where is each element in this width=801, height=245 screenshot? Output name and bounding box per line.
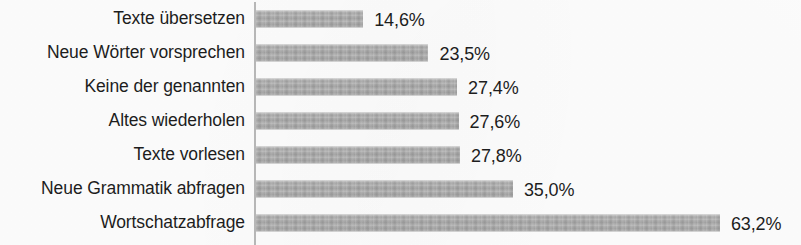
bar-wrapper: 35,0% bbox=[256, 181, 574, 198]
bar-row: Texte übersetzen14,6% bbox=[0, 2, 801, 36]
bar-row: Neue Wörter vorsprechen23,5% bbox=[0, 36, 801, 70]
bar-row: Wortschatzabfrage63,2% bbox=[0, 206, 801, 240]
bar-wrapper: 27,8% bbox=[256, 147, 522, 164]
bar-wrapper: 27,6% bbox=[256, 113, 520, 130]
bar bbox=[256, 181, 513, 198]
bar-row: Altes wiederholen27,6% bbox=[0, 104, 801, 138]
category-label: Keine der genannten bbox=[84, 78, 245, 96]
category-label: Neue Grammatik abfragen bbox=[41, 180, 245, 198]
value-label: 27,4% bbox=[468, 78, 519, 96]
bar-wrapper: 14,6% bbox=[256, 11, 425, 28]
value-label: 63,2% bbox=[731, 214, 782, 232]
category-label: Texte übersetzen bbox=[113, 10, 245, 28]
bar bbox=[256, 79, 457, 96]
value-label: 27,6% bbox=[470, 112, 521, 130]
value-label: 27,8% bbox=[471, 146, 522, 164]
plot-area: Texte übersetzen14,6%Neue Wörter vorspre… bbox=[0, 0, 801, 245]
bar-chart: Texte übersetzen14,6%Neue Wörter vorspre… bbox=[0, 0, 801, 245]
category-label: Texte vorlesen bbox=[134, 146, 245, 164]
value-label: 14,6% bbox=[374, 10, 425, 28]
bar bbox=[256, 215, 720, 232]
bar bbox=[256, 11, 363, 28]
value-label: 35,0% bbox=[524, 180, 575, 198]
bar bbox=[256, 45, 428, 62]
bar-row: Texte vorlesen27,8% bbox=[0, 138, 801, 172]
bar bbox=[256, 113, 459, 130]
category-label: Wortschatzabfrage bbox=[100, 214, 245, 232]
category-label: Neue Wörter vorsprechen bbox=[47, 44, 245, 62]
bar-wrapper: 23,5% bbox=[256, 45, 490, 62]
bar-row: Keine der genannten27,4% bbox=[0, 70, 801, 104]
value-label: 23,5% bbox=[439, 44, 490, 62]
bar-wrapper: 63,2% bbox=[256, 215, 781, 232]
bar-wrapper: 27,4% bbox=[256, 79, 519, 96]
bar bbox=[256, 147, 460, 164]
category-label: Altes wiederholen bbox=[109, 112, 245, 130]
bar-row: Neue Grammatik abfragen35,0% bbox=[0, 172, 801, 206]
